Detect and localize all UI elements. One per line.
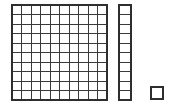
hundred-flat-cell — [79, 24, 89, 34]
hundred-flat-cell — [79, 5, 89, 15]
hundred-flat-cell — [98, 72, 108, 82]
ten-rod-cell — [119, 62, 131, 72]
hundred-flat-cell — [88, 91, 98, 101]
hundred-flat-cell — [60, 24, 70, 34]
hundred-flat-cell — [12, 43, 22, 53]
hundred-flat-cell — [31, 81, 41, 91]
hundred-flat-cell — [79, 15, 89, 25]
hundred-flat-cell — [60, 15, 70, 25]
ten-rod-cell — [119, 53, 131, 63]
hundred-flat-cell — [12, 53, 22, 63]
hundred-flat-cell — [60, 5, 70, 15]
hundred-flat-cell — [22, 15, 32, 25]
hundred-flat-cell — [88, 43, 98, 53]
hundred-flat-cell — [50, 5, 60, 15]
hundred-flat-cell — [22, 81, 32, 91]
hundred-flat-cell — [69, 24, 79, 34]
hundred-flat-cell — [31, 62, 41, 72]
hundred-flat-cell — [69, 62, 79, 72]
hundred-flat-cell — [88, 62, 98, 72]
hundred-flat-cell — [41, 91, 51, 101]
hundred-flat-cell — [88, 81, 98, 91]
one-unit-cell — [151, 87, 163, 99]
base-ten-blocks-canvas — [0, 0, 169, 107]
hundred-flat-cell — [22, 72, 32, 82]
hundred-flat-cell — [88, 24, 98, 34]
hundred-flat-cell — [98, 5, 108, 15]
hundred-flat-cell — [69, 43, 79, 53]
hundred-flat-cell — [41, 24, 51, 34]
hundred-flat-cell — [88, 53, 98, 63]
hundred-flat-cell — [79, 43, 89, 53]
hundred-flat-cell — [31, 34, 41, 44]
hundred-flat-cell — [41, 43, 51, 53]
hundred-flat-cell — [69, 81, 79, 91]
hundred-flat-cell — [98, 43, 108, 53]
hundred-flat-cell — [98, 24, 108, 34]
hundred-flat-block[interactable] — [12, 5, 107, 100]
hundred-flat-cell — [50, 15, 60, 25]
hundred-flat-cell — [60, 72, 70, 82]
hundred-flat-cell — [12, 15, 22, 25]
hundred-flat-cell — [69, 72, 79, 82]
hundred-flat-cell — [12, 5, 22, 15]
hundred-flat-cell — [88, 5, 98, 15]
hundred-flat-cell — [50, 43, 60, 53]
hundred-flat-cell — [88, 15, 98, 25]
hundred-flat-cell — [12, 62, 22, 72]
hundred-flat-cell — [31, 5, 41, 15]
ten-rod-cell — [119, 91, 131, 101]
hundred-flat-cell — [31, 15, 41, 25]
ten-rod-cell — [119, 15, 131, 25]
hundred-flat-cell — [22, 62, 32, 72]
hundred-flat-cell — [12, 91, 22, 101]
ten-rod-cell — [119, 24, 131, 34]
hundred-flat-cell — [79, 81, 89, 91]
hundred-flat-cell — [22, 53, 32, 63]
hundred-flat-cell — [12, 72, 22, 82]
ten-rod-cell — [119, 5, 131, 15]
hundred-flat-cell — [50, 91, 60, 101]
hundred-flat-cell — [69, 5, 79, 15]
hundred-flat-cell — [79, 34, 89, 44]
hundred-flat-cell — [50, 53, 60, 63]
hundred-flat-cell — [79, 53, 89, 63]
hundred-flat-cell — [41, 53, 51, 63]
hundred-flat-cell — [22, 34, 32, 44]
hundred-flat-cell — [98, 34, 108, 44]
hundred-flat-cell — [31, 72, 41, 82]
hundred-flat-cell — [41, 34, 51, 44]
ten-rod-cell — [119, 34, 131, 44]
hundred-flat-cell — [22, 24, 32, 34]
hundred-flat-cell — [50, 62, 60, 72]
hundred-flat-cell — [69, 91, 79, 101]
ten-rod-cell — [119, 72, 131, 82]
hundred-flat-cell — [60, 34, 70, 44]
ten-rod-cell — [119, 81, 131, 91]
hundred-flat-cell — [50, 34, 60, 44]
hundred-flat-cell — [69, 15, 79, 25]
hundred-flat-cell — [41, 15, 51, 25]
hundred-flat-cell — [60, 81, 70, 91]
hundred-flat-cell — [22, 5, 32, 15]
hundred-flat-cell — [50, 72, 60, 82]
hundred-flat-cell — [31, 53, 41, 63]
hundred-flat-cell — [98, 53, 108, 63]
ten-rod-block[interactable] — [119, 5, 131, 100]
hundred-flat-cell — [50, 81, 60, 91]
hundred-flat-cell — [22, 43, 32, 53]
hundred-flat-cell — [98, 15, 108, 25]
hundred-flat-cell — [60, 62, 70, 72]
hundred-flat-cell — [41, 62, 51, 72]
hundred-flat-cell — [98, 62, 108, 72]
hundred-flat-cell — [41, 81, 51, 91]
hundred-flat-cell — [41, 5, 51, 15]
hundred-flat-cell — [79, 62, 89, 72]
hundred-flat-cell — [60, 43, 70, 53]
hundred-flat-cell — [12, 34, 22, 44]
one-unit-block[interactable] — [151, 87, 163, 99]
hundred-flat-cell — [12, 24, 22, 34]
hundred-flat-cell — [98, 91, 108, 101]
ten-rod-cell — [119, 43, 131, 53]
hundred-flat-cell — [69, 53, 79, 63]
